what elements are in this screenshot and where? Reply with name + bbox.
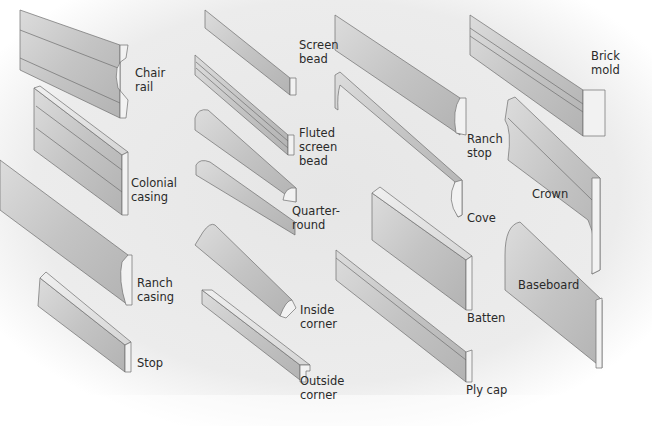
molding-diagram: Chair rail Colonial casing Ranch casing … <box>0 0 652 426</box>
label-quarter-round: Quarter- round <box>292 204 340 232</box>
label-fluted-screen-bead: Fluted screen bead <box>299 126 337 168</box>
label-stop: Stop <box>137 356 163 370</box>
label-cove: Cove <box>467 211 496 225</box>
label-outside-corner: Outside corner <box>300 374 344 402</box>
label-colonial-casing: Colonial casing <box>131 176 177 204</box>
label-ranch-casing: Ranch casing <box>137 276 174 304</box>
label-ply-cap: Ply cap <box>466 383 507 397</box>
brick-mold-molding <box>470 15 605 136</box>
label-screen-bead: Screen bead <box>299 38 339 66</box>
label-batten: Batten <box>467 311 505 325</box>
baseboard-molding <box>505 222 602 368</box>
label-ranch-stop: Ranch stop <box>467 132 503 160</box>
label-brick-mold: Brick mold <box>591 49 620 77</box>
label-chair-rail: Chair rail <box>135 66 165 94</box>
ranch-stop-molding <box>335 15 466 135</box>
label-baseboard: Baseboard <box>518 278 579 292</box>
label-crown: Crown <box>532 187 568 201</box>
label-inside-corner: Inside corner <box>300 303 337 331</box>
